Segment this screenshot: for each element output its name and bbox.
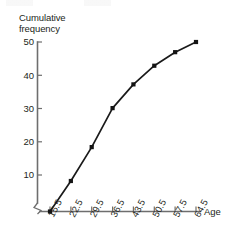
y-tick-label: 10 bbox=[23, 169, 34, 180]
data-point bbox=[152, 64, 156, 68]
x-tick-label: 57.5 bbox=[171, 197, 189, 218]
x-tick-label: 15.5 bbox=[46, 197, 64, 218]
x-tick-labels: 15.5 22.5 29.5 36.5 43.5 50.5 57.5 64.5 bbox=[46, 197, 210, 218]
x-tick-label: 22.5 bbox=[66, 197, 84, 218]
y-tick-labels: 50 40 30 20 10 bbox=[23, 36, 34, 180]
x-axis-title: Age bbox=[204, 206, 221, 217]
y-axis-break-icon bbox=[34, 203, 41, 214]
data-point bbox=[131, 82, 135, 86]
x-tick-label: 43.5 bbox=[129, 197, 147, 218]
cumulative-frequency-chart: Cumulative frequency 50 40 30 20 10 bbox=[0, 0, 241, 250]
y-tick-label: 40 bbox=[23, 70, 34, 81]
data-point bbox=[110, 106, 114, 110]
data-point bbox=[48, 209, 52, 213]
data-point-markers bbox=[48, 40, 198, 214]
data-point bbox=[173, 50, 177, 54]
cumulative-frequency-curve bbox=[50, 42, 196, 212]
x-tick-label: 36.5 bbox=[108, 197, 126, 218]
data-point bbox=[194, 40, 198, 44]
y-tick-label: 20 bbox=[23, 136, 34, 147]
y-tick-label: 50 bbox=[23, 36, 34, 47]
plot-area: 50 40 30 20 10 15.5 22.5 29.5 36.5 43.5 … bbox=[0, 0, 241, 250]
x-tick-label: 29.5 bbox=[87, 197, 105, 218]
x-tick-label: 50.5 bbox=[150, 197, 168, 218]
data-point bbox=[69, 179, 73, 183]
data-point bbox=[90, 145, 94, 149]
y-tick-label: 30 bbox=[23, 103, 34, 114]
